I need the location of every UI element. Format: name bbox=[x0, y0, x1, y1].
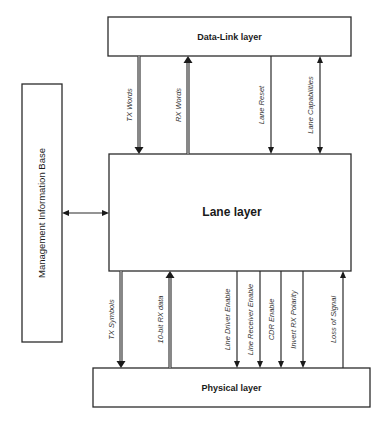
arrowhead-down-icon bbox=[135, 147, 144, 154]
line-receiver-enable-label: Line Receiver Enable bbox=[246, 284, 255, 355]
lane-layer-block: Lane layer bbox=[109, 154, 351, 271]
physical-layer-label: Physical layer bbox=[201, 383, 262, 393]
lane-reset-label: Lane Reset bbox=[257, 85, 266, 124]
invert-rx-polarity-label: Invert RX Polarity bbox=[289, 289, 298, 349]
arrowhead-up-icon bbox=[166, 271, 175, 278]
loss-of-signal-signal: Loss of Signal bbox=[329, 271, 346, 368]
tx-symbols-signal: TX Symbols bbox=[107, 271, 126, 368]
line-receiver-enable-signal: Line Receiver Enable bbox=[246, 271, 263, 368]
arrowhead-down-icon bbox=[278, 361, 284, 368]
invert-rx-polarity-signal: Invert RX Polarity bbox=[289, 271, 306, 368]
tx-symbols-label: TX Symbols bbox=[107, 299, 116, 340]
arrowhead-down-icon bbox=[300, 361, 306, 368]
lane-reset-signal: Lane Reset bbox=[257, 56, 274, 154]
cdr-enable-label: CDR Enable bbox=[267, 299, 276, 341]
tx-words-signal: TX Words bbox=[125, 56, 144, 154]
arrowhead-down-icon bbox=[317, 147, 323, 154]
arrowhead-down-icon bbox=[117, 361, 126, 368]
rx-data-label: 10-bit RX data bbox=[156, 296, 165, 344]
rx-data-signal: 10-bit RX data bbox=[156, 271, 175, 368]
mib-lane-link-signal bbox=[62, 210, 109, 216]
arrowhead-right-icon bbox=[102, 210, 109, 216]
data-link-layer-label: Data-Link layer bbox=[197, 32, 262, 42]
mib-block: Management Information Base bbox=[22, 84, 62, 342]
arrowhead-left-icon bbox=[62, 210, 69, 216]
lane-capabilities-label: Lane Capabilities bbox=[306, 76, 315, 134]
cdr-enable-signal: CDR Enable bbox=[267, 271, 284, 368]
lane-capabilities-signal: Lane Capabilities bbox=[306, 56, 323, 154]
rx-words-signal: RX Words bbox=[174, 56, 193, 154]
arrowhead-down-icon bbox=[234, 361, 240, 368]
rx-words-label: RX Words bbox=[174, 88, 183, 122]
data-link-layer-block: Data-Link layer bbox=[108, 17, 351, 56]
tx-words-label: TX Words bbox=[125, 88, 134, 122]
layer-diagram: Data-Link layer Management Information B… bbox=[0, 0, 389, 423]
mib-label: Management Information Base bbox=[36, 148, 47, 278]
line-driver-enable-label: Line Driver Enable bbox=[223, 289, 232, 351]
line-driver-enable-signal: Line Driver Enable bbox=[223, 271, 240, 368]
loss-of-signal-label: Loss of Signal bbox=[329, 296, 338, 343]
arrowhead-down-icon bbox=[257, 361, 263, 368]
arrowhead-up-icon bbox=[317, 56, 323, 63]
arrowhead-up-icon bbox=[340, 271, 346, 278]
arrowhead-up-icon bbox=[184, 56, 193, 63]
lane-layer-label: Lane layer bbox=[202, 205, 262, 219]
arrowhead-down-icon bbox=[268, 147, 274, 154]
physical-layer-block: Physical layer bbox=[93, 368, 370, 407]
